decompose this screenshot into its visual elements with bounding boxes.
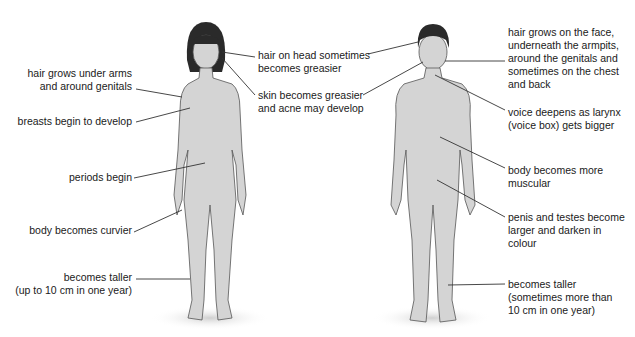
label-hair-face: hair grows on the face, underneath the a… <box>508 26 619 91</box>
female-figure <box>150 22 270 330</box>
label-hair-under-arms: hair grows under arms and around genital… <box>28 67 132 93</box>
label-male-taller: becomes taller (sometimes more than 10 c… <box>508 278 612 317</box>
label-hair-on-head: hair on head sometimes becomes greasier <box>258 49 370 75</box>
label-muscular: body becomes more muscular <box>508 164 603 190</box>
label-penis-testes: penis and testes become larger and darke… <box>508 211 625 250</box>
label-breasts: breasts begin to develop <box>18 115 132 128</box>
label-skin-greasier: skin becomes greasier and acne may devel… <box>258 89 364 115</box>
label-curvier: body becomes curvier <box>29 224 132 237</box>
label-periods: periods begin <box>69 171 132 184</box>
label-female-taller: becomes taller (up to 10 cm in one year) <box>15 271 132 297</box>
label-voice: voice deepens as larynx (voice box) gets… <box>508 106 621 132</box>
